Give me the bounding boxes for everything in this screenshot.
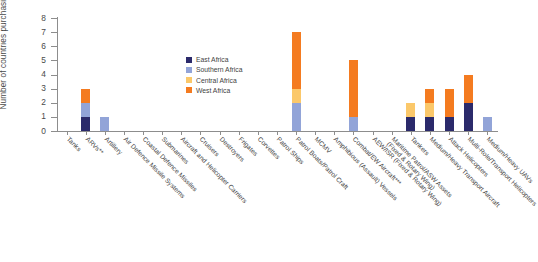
bar-stack[interactable] [425,89,434,131]
bar-segment-southern-africa [292,103,301,131]
legend-label: East Africa [196,56,229,63]
bar-slot [344,18,363,131]
legend-swatch-icon [186,87,192,93]
bar-stack[interactable] [406,103,415,131]
bar-series-area [57,18,497,131]
bar-slot [134,18,153,131]
legend-label: Central Africa [196,77,237,84]
bar-slot [248,18,267,131]
bar-slot [325,18,344,131]
bar-segment-east-africa [445,117,454,131]
bar-segment-southern-africa [81,103,90,117]
y-tick-label: 2 [30,97,46,107]
legend-item[interactable]: West Africa [186,86,242,96]
bar-stack[interactable] [464,75,473,132]
legend-swatch-icon [186,77,192,83]
bar-slot [95,18,114,131]
bar-slot [363,18,382,131]
bar-stack[interactable] [81,89,90,131]
y-tick-label: 7 [30,27,46,37]
x-label-slot: Attack Helicopters [440,135,459,245]
x-label-slot: Amphibious (Assault) Vessels [325,135,344,245]
bar-slot [287,18,306,131]
x-label-slot: Artillery [95,135,114,245]
x-label-slot: Corvettes [248,135,267,245]
x-label-slot: Medium/Heavy UAVs [478,135,497,245]
x-label-slot: Multi-Role/Transport Helicopters [459,135,478,245]
x-label-slot: AEW/ISR (Fixed & Rotary Wing) [363,135,382,245]
legend-item[interactable]: East Africa [186,55,242,65]
bar-segment-east-africa [81,117,90,131]
bar-segment-central-africa [292,89,301,103]
bar-segment-southern-africa [483,117,492,131]
chart-legend: East AfricaSouthern AfricaCentral Africa… [186,55,242,96]
x-label-slot: Cruisers [191,135,210,245]
bar-stack[interactable] [349,60,358,131]
y-tick-label: 5 [30,55,46,65]
bar-slot [478,18,497,131]
y-tick-label: 1 [30,111,46,121]
bar-stack[interactable] [100,117,109,131]
bar-slot [440,18,459,131]
legend-item[interactable]: Southern Africa [186,65,242,75]
bar-segment-west-africa [349,60,358,117]
x-axis-labels: TanksARVs**ArtilleryAir Defence Missile … [57,135,497,245]
bar-segment-west-africa [445,89,454,117]
bar-segment-west-africa [425,89,434,103]
bar-segment-east-africa [425,117,434,131]
x-label-slot: Patrol Boats/Patrol Craft [287,135,306,245]
x-label-slot: Combat/EW Aircraft*** [344,135,363,245]
x-label-slot: Coastal Defence Missiles [134,135,153,245]
bar-slot [267,18,286,131]
y-tick-label: 8 [30,13,46,23]
bar-segment-southern-africa [349,117,358,131]
x-label-slot: Frigates [229,135,248,245]
x-label-slot: Medium/Heavy Transport Aircraft [420,135,439,245]
x-label-slot: ARVs** [76,135,95,245]
y-tick-label: 4 [30,69,46,79]
y-tick-label: 6 [30,41,46,51]
bar-segment-west-africa [292,32,301,89]
y-tick-label: 0 [30,126,46,136]
x-label-slot: Tanks [57,135,76,245]
legend-swatch-icon [186,67,192,73]
x-label-slot: Submarines [153,135,172,245]
bar-segment-southern-africa [100,117,109,131]
bar-slot [114,18,133,131]
x-label-slot: Air Defence Missile Systems [114,135,133,245]
bar-stack[interactable] [445,89,454,131]
x-label-slot: Maritime Patrol/ASW Assets (Fixed & Rota… [382,135,401,245]
bar-slot [459,18,478,131]
bar-slot [57,18,76,131]
x-label-slot: Patrol Ships [267,135,286,245]
y-tick-label: 3 [30,83,46,93]
legend-swatch-icon [186,57,192,63]
legend-item[interactable]: Central Africa [186,75,242,85]
x-label-slot: Tankers [401,135,420,245]
x-label-slot: Destroyers [210,135,229,245]
bar-stack[interactable] [292,32,301,131]
bar-segment-central-africa [406,103,415,117]
x-label-slot: MCMV [306,135,325,245]
bar-segment-east-africa [464,103,473,131]
bar-segment-central-africa [425,103,434,117]
bar-segment-west-africa [464,75,473,103]
x-label-slot: Aircraft and Helicopter Carriers [172,135,191,245]
legend-label: West Africa [196,87,230,94]
bar-slot [306,18,325,131]
bar-slot [76,18,95,131]
bar-segment-east-africa [406,117,415,131]
bar-segment-west-africa [81,89,90,103]
y-axis-ticks: 012345678 [0,0,57,262]
legend-label: Southern Africa [196,66,242,73]
bar-slot [382,18,401,131]
bar-stack[interactable] [483,117,492,131]
bar-slot [153,18,172,131]
bar-slot [420,18,439,131]
bar-slot [401,18,420,131]
